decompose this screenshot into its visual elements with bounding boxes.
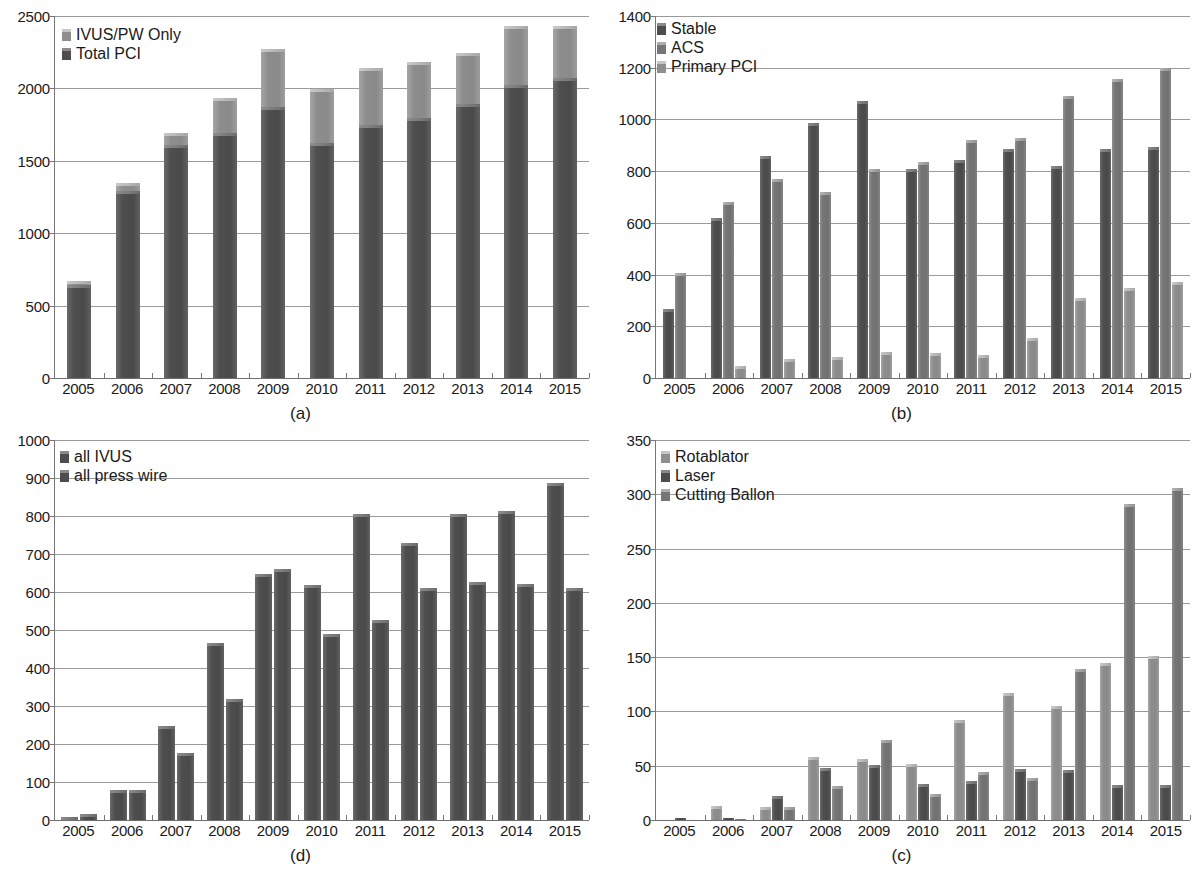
chart-d-caption: (d) (0, 846, 601, 866)
bar-segment (456, 104, 480, 378)
y-tick-mark (650, 820, 656, 821)
chart-b-y-axis: 0200400600800100012001400 (609, 16, 655, 378)
y-tick-label: 1000 (618, 112, 651, 127)
bar-cap (1172, 282, 1183, 285)
y-tick-label: 700 (26, 547, 50, 562)
bar (1051, 166, 1062, 378)
bar-cap (906, 764, 917, 767)
bar-segment (310, 143, 334, 378)
x-tick-label: 2011 (346, 380, 395, 397)
bar (304, 585, 321, 820)
bar-cap (1075, 669, 1086, 672)
legend-item[interactable]: Laser (661, 467, 775, 484)
bar-cap (1172, 488, 1183, 491)
bar-cap (323, 634, 340, 637)
x-tick-label: 2005 (54, 822, 103, 839)
bar-cap (1051, 166, 1062, 169)
y-tick-label: 300 (627, 487, 651, 502)
bar-cap (1027, 338, 1038, 341)
bar-cap (129, 790, 146, 793)
bar-cap (954, 160, 965, 163)
legend-swatch-icon (62, 48, 71, 60)
x-tick-label: 2010 (297, 380, 346, 397)
bar-cap (504, 26, 528, 29)
legend-label: Total PCI (76, 45, 141, 62)
chart-b-legend: StableACSPrimary PCI (657, 20, 757, 77)
legend-item[interactable]: Cutting Ballon (661, 486, 775, 503)
bar (978, 355, 989, 378)
bar-cap (547, 483, 564, 486)
bar-group (850, 16, 899, 378)
bar (498, 511, 515, 820)
bar-cap (1112, 785, 1123, 788)
bar (420, 588, 437, 820)
bar (723, 818, 734, 820)
bar (469, 582, 486, 820)
bar (1075, 298, 1086, 378)
bar-cap (1100, 663, 1111, 666)
y-tick-label: 350 (627, 433, 651, 448)
bar-group (395, 16, 444, 378)
x-tick-label: 2008 (801, 822, 850, 839)
bar (1148, 147, 1159, 378)
bar (918, 784, 929, 820)
chart-d-grouped-bar: 01002003004005006007008009001000 (8, 440, 593, 820)
bar (547, 483, 564, 820)
bar-cap (966, 781, 977, 784)
bar-cap (116, 183, 140, 186)
bar-group (899, 440, 948, 820)
legend-swatch-icon (60, 470, 69, 482)
bar-cap (918, 162, 929, 165)
bar (918, 162, 929, 378)
bar (1063, 96, 1074, 378)
bar-cap (966, 140, 977, 143)
x-tick-label: 2012 (995, 822, 1044, 839)
x-tick-mark (1190, 815, 1191, 820)
bar-cap (177, 753, 194, 756)
bar-cap (407, 118, 431, 121)
x-tick-label: 2010 (898, 822, 947, 839)
bar-segment (116, 183, 140, 191)
x-tick-label: 2006 (704, 380, 753, 397)
chart-a-plot-area (54, 16, 589, 378)
bar-cap (930, 353, 941, 356)
legend-item[interactable]: Total PCI (62, 45, 181, 62)
bar (80, 814, 97, 820)
x-tick-label: 2015 (540, 380, 589, 397)
chart-c-y-axis: 050100150200250300350 (609, 440, 655, 820)
bar-group (802, 440, 851, 820)
x-tick-label: 2009 (249, 380, 298, 397)
y-tick-label: 600 (26, 585, 50, 600)
legend-item[interactable]: Primary PCI (657, 58, 757, 75)
legend-item[interactable]: Rotablator (661, 448, 775, 465)
chart-b-caption: (b) (601, 404, 1202, 424)
bar-cap (978, 772, 989, 775)
bar (820, 768, 831, 820)
legend-item[interactable]: all press wire (60, 467, 167, 484)
stacked-bar (310, 89, 334, 378)
gridline (55, 820, 589, 821)
bar-cap (553, 26, 577, 29)
bar-cap (1148, 656, 1159, 659)
x-tick-mark (1190, 373, 1191, 378)
chart-a-y-axis: 05001000150020002500 (8, 16, 54, 378)
bar-segment (261, 107, 285, 378)
bar-cap (553, 78, 577, 81)
legend-item[interactable]: IVUS/PW Only (62, 26, 181, 43)
bar-cap (1124, 288, 1135, 291)
bar (1027, 338, 1038, 378)
legend-item[interactable]: all IVUS (60, 448, 167, 465)
bar-cap (469, 582, 486, 585)
bar-cap (158, 726, 175, 729)
legend-item[interactable]: ACS (657, 39, 757, 56)
bar (1015, 138, 1026, 378)
stacked-bar (456, 53, 480, 378)
y-tick-label: 250 (627, 541, 651, 556)
legend-item[interactable]: Stable (657, 20, 757, 37)
bar-cap (407, 62, 431, 65)
bar (129, 790, 146, 820)
bar-cap (1063, 770, 1074, 773)
bar-cap (164, 133, 188, 136)
legend-label: IVUS/PW Only (76, 26, 181, 43)
panel-a: 05001000150020002500 2005200620072008200… (0, 0, 601, 447)
